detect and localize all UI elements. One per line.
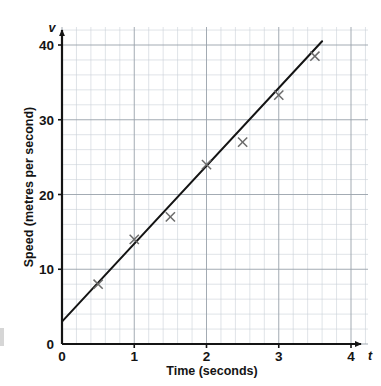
y-axis-tick-label: 0: [46, 337, 54, 352]
chart-background: [0, 0, 381, 386]
x-axis-tick-label: 3: [275, 349, 283, 364]
x-axis-tick-label: 4: [347, 349, 355, 364]
y-axis-title: Speed (metres per second): [22, 107, 36, 267]
x-axis-tick-label: 2: [203, 349, 211, 364]
scatter-chart: 01234 010203040 v t Time (seconds) Speed…: [0, 0, 381, 386]
x-axis-tick-label: 0: [58, 349, 66, 364]
x-axis-tick-label: 1: [130, 349, 138, 364]
page-edge-artifact: [0, 328, 4, 346]
y-axis-tick-label: 10: [39, 262, 54, 277]
speed-time-graph-figure: 01234 010203040 v t Time (seconds) Speed…: [0, 0, 381, 386]
x-axis-title: Time (seconds): [166, 364, 257, 378]
y-axis-tick-label: 20: [39, 188, 54, 203]
y-axis-symbol-label: v: [49, 21, 57, 35]
y-axis-tick-label: 40: [39, 38, 54, 53]
y-axis-tick-label: 30: [39, 113, 54, 128]
